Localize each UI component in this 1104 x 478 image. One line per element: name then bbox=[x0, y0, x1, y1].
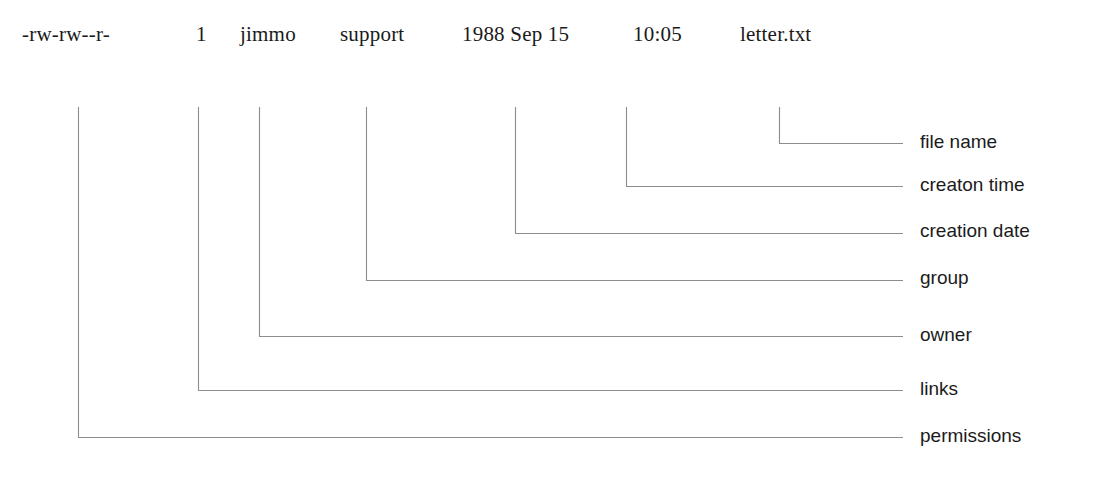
leader-line-links bbox=[199, 107, 904, 391]
leader-line-owner bbox=[260, 107, 904, 337]
caption-links: links bbox=[920, 379, 958, 398]
caption-filename: file name bbox=[920, 132, 997, 151]
caption-creation-time: creaton time bbox=[920, 175, 1025, 194]
leader-line-permissions bbox=[79, 107, 904, 438]
figure-canvas: -rw-rw--r- 1 jimmo support 1988 Sep 15 1… bbox=[0, 0, 1104, 478]
caption-creation-date: creation date bbox=[920, 221, 1030, 240]
leader-line-creation-time bbox=[627, 107, 904, 187]
caption-permissions: permissions bbox=[920, 426, 1021, 445]
leader-line-group bbox=[367, 107, 904, 281]
caption-group: group bbox=[920, 268, 969, 287]
caption-owner: owner bbox=[920, 325, 972, 344]
leader-line-filename bbox=[780, 107, 904, 144]
leader-line-creation-date bbox=[516, 107, 904, 234]
